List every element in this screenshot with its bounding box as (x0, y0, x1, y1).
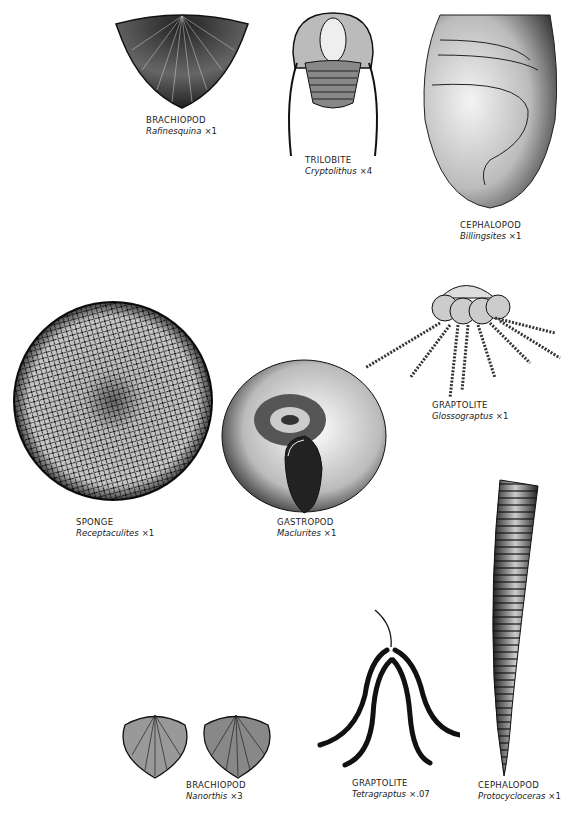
magnification: ×3 (230, 791, 243, 801)
genus-name: Billingsites (460, 231, 506, 241)
genus-name: Maclurites (277, 528, 321, 538)
specimen-label: GRAPTOLITE Glossograptus×1 (432, 400, 508, 421)
sponge-receptaculites-illustration (12, 300, 214, 502)
group-name: BRACHIOPOD (186, 780, 246, 791)
cephalopod-billingsites-illustration (420, 10, 560, 210)
magnification: ×1 (324, 528, 337, 538)
graptolite-tetragraptus-illustration (315, 605, 460, 770)
specimen-label: GRAPTOLITE Tetragraptus×.07 (352, 778, 430, 799)
cephalopod-protocycloceras-illustration (480, 478, 540, 778)
group-name: CEPHALOPOD (478, 780, 561, 791)
group-name: GRAPTOLITE (432, 400, 508, 411)
group-name: GASTROPOD (277, 517, 336, 528)
specimen-label: CEPHALOPOD Protocycloceras×1 (478, 780, 561, 801)
genus-name: Protocycloceras (478, 791, 545, 801)
specimen-label: BRACHIOPOD Nanorthis×3 (186, 780, 246, 801)
magnification: ×1 (142, 528, 155, 538)
genus-name: Glossograptus (432, 411, 493, 421)
gastropod-maclurites-illustration (220, 358, 388, 518)
brachiopod-nanorthis-illustration (120, 710, 275, 780)
group-name: SPONGE (76, 517, 154, 528)
magnification: ×4 (360, 166, 373, 176)
specimen-label: BRACHIOPOD Rafinesquina×1 (146, 115, 217, 136)
magnification: ×1 (204, 126, 217, 136)
specimen-label: SPONGE Receptaculites×1 (76, 517, 154, 538)
genus-name: Nanorthis (186, 791, 227, 801)
specimen-label: TRILOBITE Cryptolithus×4 (305, 155, 372, 176)
group-name: GRAPTOLITE (352, 778, 430, 789)
brachiopod-rafinesquina-illustration (112, 10, 252, 110)
magnification: ×.07 (409, 789, 430, 799)
magnification: ×1 (509, 231, 522, 241)
group-name: BRACHIOPOD (146, 115, 217, 126)
group-name: TRILOBITE (305, 155, 372, 166)
group-name: CEPHALOPOD (460, 220, 521, 231)
genus-name: Rafinesquina (146, 126, 201, 136)
magnification: ×1 (548, 791, 561, 801)
graptolite-glossograptus-illustration (360, 273, 570, 403)
trilobite-cryptolithus-illustration (283, 8, 383, 158)
genus-name: Receptaculites (76, 528, 139, 538)
genus-name: Cryptolithus (305, 166, 357, 176)
specimen-label: GASTROPOD Maclurites×1 (277, 517, 336, 538)
genus-name: Tetragraptus (352, 789, 406, 799)
specimen-label: CEPHALOPOD Billingsites×1 (460, 220, 521, 241)
magnification: ×1 (496, 411, 509, 421)
